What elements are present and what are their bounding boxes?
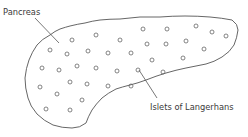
islet-circle (48, 48, 52, 52)
pancreas-diagram: Pancreas Islets of Langerhans (0, 0, 248, 137)
islet-circle (80, 98, 84, 102)
islet-circle (57, 68, 61, 72)
islet-circle (161, 70, 165, 74)
islet-circle (115, 69, 119, 73)
islet-circle (68, 108, 72, 112)
islets-label: Islets of Langerhans (150, 102, 234, 112)
islet-circle (184, 39, 188, 43)
islet-circle (165, 27, 169, 31)
islet-circle (118, 38, 122, 42)
islet-circle (194, 24, 198, 28)
islet-circle (68, 80, 72, 84)
islet-circle (65, 52, 69, 56)
islet-circle (141, 27, 145, 31)
pancreas-label: Pancreas (3, 7, 40, 17)
islet-circle (70, 38, 74, 42)
islet-circle (55, 92, 59, 96)
islet-circle (44, 107, 48, 111)
islet-circle (38, 85, 42, 89)
islet-circle (86, 49, 90, 53)
islet-circle (210, 30, 214, 34)
islet-circle (106, 84, 110, 88)
islet-circle (85, 82, 89, 86)
islet-circle (94, 33, 98, 37)
islet-circle (40, 66, 44, 70)
islet-circle (224, 34, 228, 38)
islet-circle (75, 64, 79, 68)
islet-circle (145, 42, 149, 46)
islet-circle (94, 66, 98, 70)
islet-circle (106, 51, 110, 55)
islets-pointer-line (139, 70, 157, 98)
islet-circle (129, 51, 133, 55)
pancreas-pointer-line (35, 18, 59, 43)
islet-circle (181, 56, 185, 60)
islet-circle (150, 58, 154, 62)
islet-circle (202, 47, 206, 51)
islet-circle (164, 42, 168, 46)
islets-of-langerhans (38, 24, 228, 112)
